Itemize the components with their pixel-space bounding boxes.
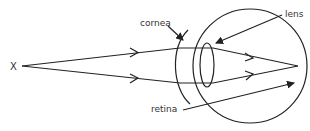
eyeball-outline	[193, 9, 307, 123]
lens-label: lens	[285, 9, 304, 19]
upper-light-ray	[22, 48, 298, 66]
retina-pointer	[183, 83, 294, 110]
cornea-pointer	[168, 26, 183, 40]
cornea-label: cornea	[140, 18, 171, 28]
cornea-outline	[175, 30, 190, 104]
retina-label: retina	[151, 104, 177, 114]
object-label: X	[10, 61, 17, 72]
lower-light-ray	[22, 66, 298, 83]
lens-pointer	[216, 15, 282, 43]
ray-direction-arrow	[245, 53, 253, 61]
eye-diagram: X cornea lens retina	[0, 0, 310, 131]
ray-direction-arrow	[130, 48, 138, 57]
lens-outline	[200, 43, 214, 87]
